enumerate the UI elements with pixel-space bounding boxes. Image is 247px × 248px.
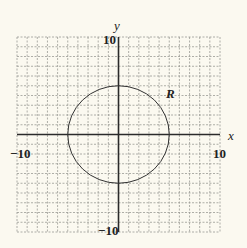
y-axis-label: y bbox=[112, 18, 120, 33]
coordinate-plane-figure: y x 10 −10 −10 10 R bbox=[0, 0, 247, 248]
y-max-tick-label: 10 bbox=[103, 32, 116, 47]
y-min-tick-label: −10 bbox=[98, 223, 118, 238]
region-label-r: R bbox=[165, 86, 175, 101]
x-axis-label: x bbox=[227, 128, 234, 143]
x-max-tick-label: 10 bbox=[213, 146, 226, 161]
x-min-tick-label: −10 bbox=[10, 146, 30, 161]
coordinate-plane: y x 10 −10 −10 10 R bbox=[0, 0, 247, 248]
